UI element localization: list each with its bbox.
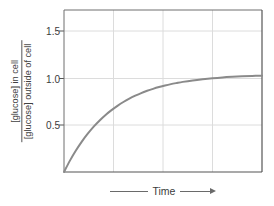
vertical-gridlines [114,10,213,172]
x-axis-left-rule [110,191,148,192]
arrow-right-icon [180,188,216,194]
x-axis-label: Time [64,180,262,202]
y-axis-tick-marks [59,31,64,125]
plot-area [0,0,274,206]
chart-figure: [glucose] in cell [glucose] outside of c… [0,0,274,206]
x-axis-label-text: Time [148,185,181,197]
